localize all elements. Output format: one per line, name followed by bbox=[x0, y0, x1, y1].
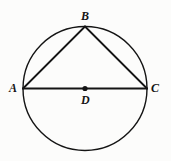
chord-segment-bc bbox=[85, 27, 147, 89]
circle-geometry-figure: A B C D bbox=[0, 0, 171, 161]
point-label-b: B bbox=[81, 10, 89, 22]
point-label-a: A bbox=[9, 82, 17, 94]
center-point-dot bbox=[82, 86, 87, 91]
point-label-d: D bbox=[81, 94, 90, 106]
geometry-canvas bbox=[0, 0, 171, 161]
point-label-c: C bbox=[151, 82, 159, 94]
chord-segment-ab bbox=[23, 27, 85, 89]
